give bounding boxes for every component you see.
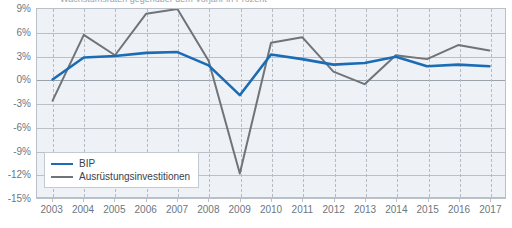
y-axis-tick-label: 9% [17,3,31,14]
x-axis-tick-label: 2005 [103,204,125,215]
y-axis-tick-label: -9% [13,145,31,156]
x-axis-tick [177,198,178,202]
x-axis-labels: 2003200420052006200720082009201020112012… [0,204,512,224]
y-axis-tick-label: 6% [17,26,31,37]
legend-swatch-bip [51,163,73,165]
x-axis-tick-label: 2006 [135,204,157,215]
caption-sliver: Wachstumsraten gegenüber dem Vorjahr in … [0,0,512,5]
x-axis-tick [83,198,84,202]
x-axis-tick-label: 2010 [260,204,282,215]
x-axis-tick [490,198,491,202]
x-axis-tick [271,198,272,202]
x-axis-tick [365,198,366,202]
x-axis-tick-label: 2013 [354,204,376,215]
legend-swatch-ausruestungsinvestitionen [51,176,73,178]
x-axis-tick [334,198,335,202]
legend: BIP Ausrüstungsinvestitionen [44,152,199,188]
legend-label-ausruestungsinvestitionen: Ausrüstungsinvestitionen [79,170,190,183]
x-axis-tick-label: 2011 [292,204,314,215]
x-axis-tick [52,198,53,202]
x-axis-tick-label: 2004 [72,204,94,215]
x-axis-tick [428,198,429,202]
y-axis-tick-label: -12% [8,169,31,180]
y-axis-tick-label: -3% [13,98,31,109]
legend-item-bip: BIP [51,157,190,170]
x-axis-tick [146,198,147,202]
x-axis-tick-label: 2016 [448,204,470,215]
x-axis-tick-label: 2007 [166,204,188,215]
y-axis-labels: 9%6%3%0%-3%-6%-9%-12%-15% [0,0,36,206]
x-axis-tick-label: 2008 [197,204,219,215]
series-line-ausruestungsinvestitionen [53,9,490,174]
x-axis-tick-label: 2003 [41,204,63,215]
x-axis-tick-label: 2017 [479,204,501,215]
x-axis-tick-label: 2012 [323,204,345,215]
chart-root: Wachstumsraten gegenüber dem Vorjahr in … [0,0,512,228]
x-axis-tick [396,198,397,202]
x-axis-tick [302,198,303,202]
x-axis-tick [114,198,115,202]
x-axis-tick [240,198,241,202]
x-axis-tick [208,198,209,202]
x-axis-tick-label: 2014 [385,204,407,215]
y-axis-tick-label: 3% [17,50,31,61]
y-axis-tick-label: -6% [13,121,31,132]
caption-sliver-text: Wachstumsraten gegenüber dem Vorjahr in … [60,0,267,4]
x-axis-tick [459,198,460,202]
x-axis-tick-label: 2009 [229,204,251,215]
y-axis-tick-label: -15% [8,193,31,204]
x-axis-tick-label: 2015 [417,204,439,215]
legend-item-ausruestungsinvestitionen: Ausrüstungsinvestitionen [51,170,190,183]
y-axis-tick-label: 0% [17,74,31,85]
legend-label-bip: BIP [79,157,95,170]
